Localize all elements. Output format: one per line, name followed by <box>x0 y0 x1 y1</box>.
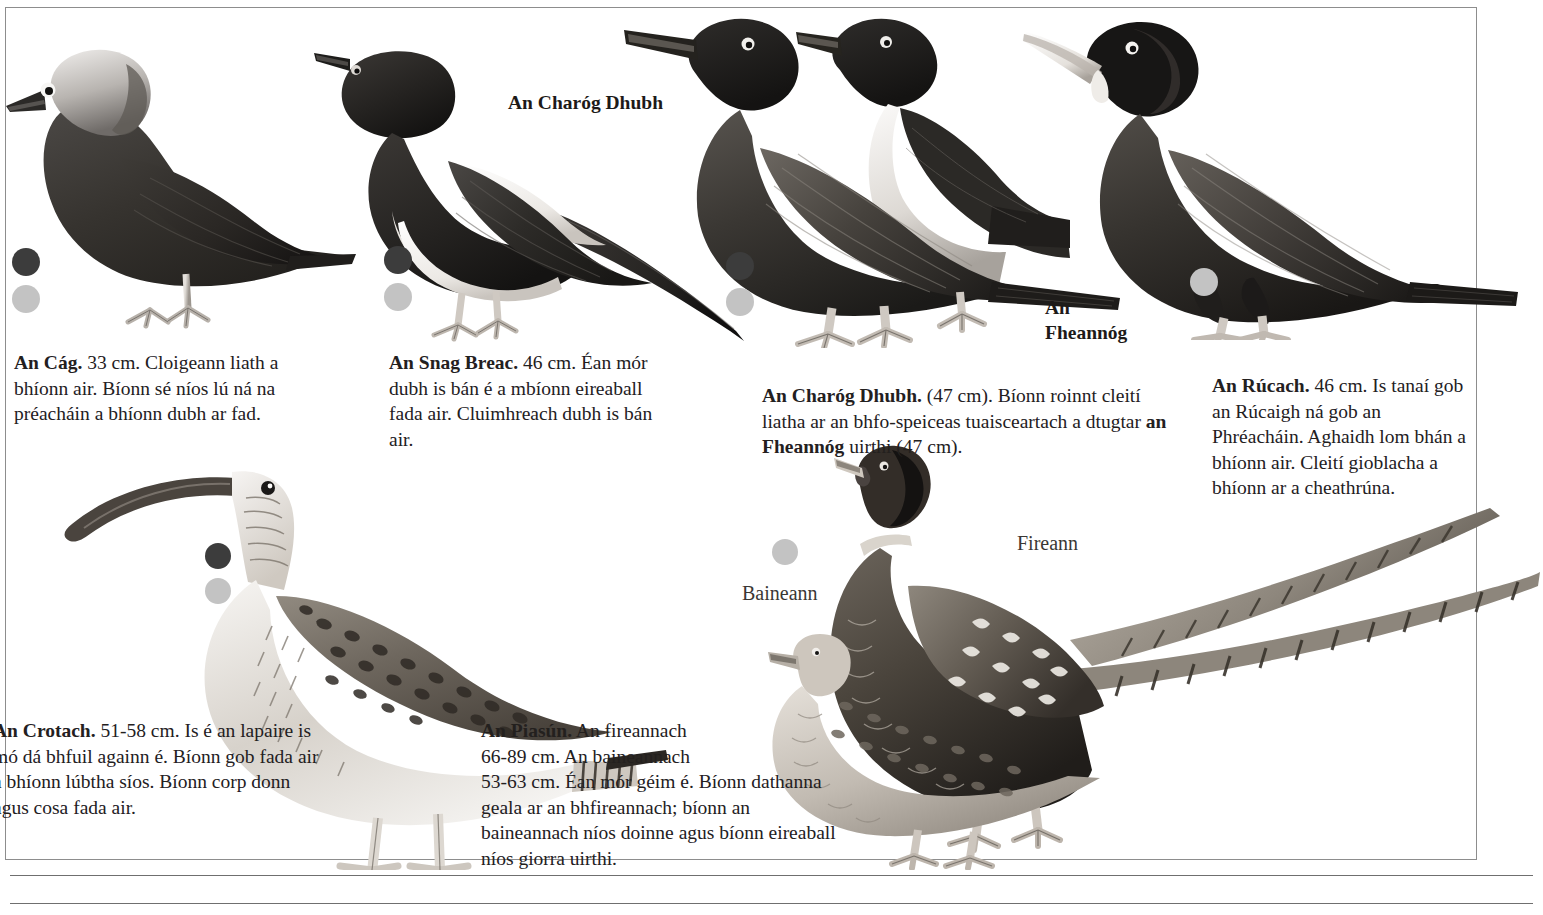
caption-cag-name: An Cág. <box>14 352 82 373</box>
marker-dot-dark-crotach <box>205 543 231 569</box>
caption-piasun: An Piasún. An fireannach 66-89 cm. An ba… <box>481 718 931 871</box>
marker-dot-light-crotach <box>205 578 231 604</box>
marker-dot-dark-charog <box>726 252 754 280</box>
callout-label-fheannog-line2: Fheannóg <box>1045 322 1127 343</box>
marker-dot-dark-cag <box>12 248 40 276</box>
caption-charog-dhubh-body-2: uirthi (47 cm). <box>844 436 962 457</box>
caption-rucach-size: 46 cm. <box>1314 375 1367 396</box>
caption-piasun-line5: baineannach níos doinne agus bíonn eirea… <box>481 822 836 843</box>
caption-crotach-name: An Crotach. <box>0 720 96 741</box>
caption-charog-dhubh-size: (47 cm). <box>927 385 993 406</box>
marker-dot-light-rucach <box>1190 268 1218 296</box>
marker-dot-light-charog <box>726 288 754 316</box>
caption-crotach-size: 51-58 cm. <box>100 720 179 741</box>
caption-piasun-line1: An fireannach <box>576 720 687 741</box>
caption-piasun-line2: 66-89 cm. An baineannach <box>481 746 690 767</box>
marker-dot-light-piasun <box>772 539 798 565</box>
caption-rucach-name: An Rúcach. <box>1212 375 1310 396</box>
caption-crotach: An Crotach. 51-58 cm. Is é an lapaire is… <box>0 718 323 820</box>
callout-label-pheasant-female: Baineann <box>742 582 818 605</box>
marker-dot-dark-snag <box>384 246 412 274</box>
callout-label-pheasant-male: Fireann <box>1017 532 1078 555</box>
footer-rule-top <box>10 875 1533 876</box>
caption-cag-size: 33 cm. <box>87 352 140 373</box>
marker-dot-light-snag <box>384 283 412 311</box>
caption-charog-dhubh-name: An Charóg Dhubh. <box>762 385 922 406</box>
caption-snag-breac: An Snag Breac. 46 cm. Éan mór dubh is bá… <box>389 350 679 452</box>
caption-charog-dhubh: An Charóg Dhubh. (47 cm). Bíonn roinnt c… <box>762 383 1182 460</box>
caption-rucach: An Rúcach. 46 cm. Is tanaí gob an Rúcaig… <box>1212 373 1477 501</box>
footer-rule-bottom <box>10 903 1533 904</box>
callout-label-charog-dhubh: An Charóg Dhubh <box>508 90 663 115</box>
marker-dot-light-cag <box>12 285 40 313</box>
illustration-rook <box>1010 10 1530 340</box>
caption-piasun-line6: níos giorra uirthi. <box>481 848 617 869</box>
callout-label-fheannog-line1: An <box>1045 297 1070 318</box>
caption-piasun-line3: 53-63 cm. Éan mór géim é. Bíonn dathanna <box>481 771 822 792</box>
callout-label-fheannog: An Fheannóg <box>1045 295 1165 345</box>
caption-piasun-line4: geala ar an bhfireannach; bíonn an <box>481 797 750 818</box>
caption-snag-breac-size: 46 cm. <box>523 352 576 373</box>
caption-piasun-name: An Piasún. <box>481 720 572 741</box>
caption-snag-breac-name: An Snag Breac. <box>389 352 518 373</box>
caption-cag: An Cág. 33 cm. Cloigeann liath a bhíonn … <box>14 350 334 427</box>
